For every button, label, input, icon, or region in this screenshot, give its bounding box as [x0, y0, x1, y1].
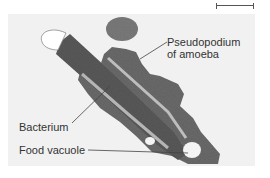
food-vacuole: [183, 142, 201, 158]
round-cell: [106, 17, 138, 41]
label-bacterium: Bacterium: [19, 121, 69, 133]
label-food-vacuole: Food vacuole: [19, 144, 85, 156]
scale-bar: [216, 3, 254, 9]
scale-bar-tick-left: [216, 3, 217, 9]
label-of-amoeba: of amoeba: [167, 48, 219, 60]
small-vacuole: [145, 137, 155, 145]
scale-bar-tick-right: [253, 3, 254, 9]
scale-bar-line: [216, 5, 254, 6]
label-pseudopodium: Pseudopodium: [167, 36, 240, 48]
